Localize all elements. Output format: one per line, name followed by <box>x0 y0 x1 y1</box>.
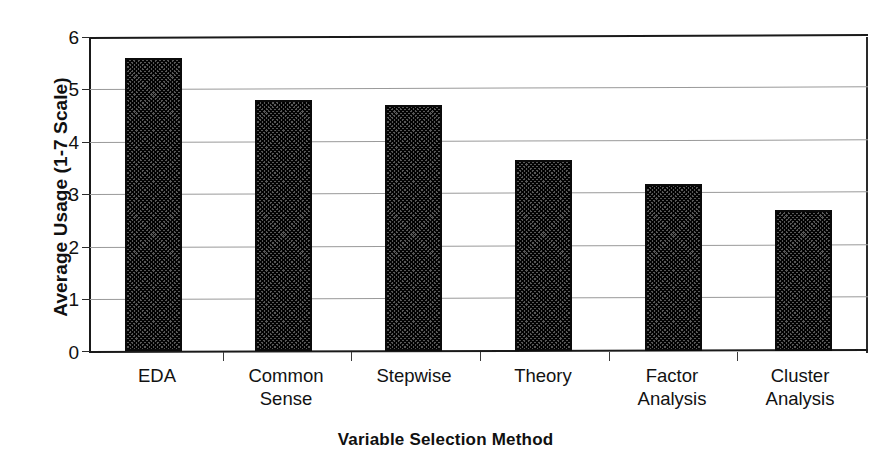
bar-factor-analysis <box>645 184 702 351</box>
y-tick-label-1: 1 <box>53 290 79 309</box>
x-tick-label-stepwise: Stepwise <box>349 364 479 387</box>
y-tick-label-2: 2 <box>53 238 79 257</box>
y-tick-label-0: 0 <box>53 343 79 362</box>
x-tick-label-eda-line-1: EDA <box>92 364 222 387</box>
x-tick-label-common-sense-line-2: Sense <box>221 387 351 410</box>
gridline-3 <box>89 191 868 195</box>
x-tick-label-factor-analysis: Factor Analysis <box>607 364 737 410</box>
x-tick-label-factor-analysis-line-1: Factor <box>607 364 737 387</box>
y-tick-mark-3 <box>82 194 90 195</box>
y-tick-label-4: 4 <box>53 133 79 152</box>
bar-theory <box>515 160 572 351</box>
x-tick-label-stepwise-line-1: Stepwise <box>349 364 479 387</box>
plot-area <box>89 37 868 353</box>
plot-frame-right-border <box>866 37 868 353</box>
y-tick-mark-6 <box>82 37 90 38</box>
gridline-5 <box>89 86 868 90</box>
y-tick-label-3: 3 <box>53 185 79 204</box>
plot-frame-baseline <box>89 349 868 353</box>
x-tick-mark-4 <box>609 352 610 361</box>
bar-cluster-analysis <box>775 210 832 351</box>
bar-common-sense <box>255 100 312 351</box>
x-tick-label-factor-analysis-line-2: Analysis <box>607 387 737 410</box>
x-tick-mark-3 <box>480 352 481 361</box>
y-tick-mark-4 <box>82 142 90 143</box>
plot-frame-left-axis <box>89 37 91 353</box>
x-tick-mark-1 <box>223 352 224 361</box>
x-tick-label-eda: EDA <box>92 364 222 387</box>
bar-chart-figure: Average Usage (1-7 Scale) 6 5 4 3 2 1 0 <box>0 0 891 470</box>
x-tick-label-cluster-analysis-line-1: Cluster <box>735 364 865 387</box>
bar-stepwise <box>385 105 442 351</box>
y-tick-mark-1 <box>82 299 90 300</box>
plot-frame-top-border <box>89 34 868 39</box>
y-tick-mark-2 <box>82 247 90 248</box>
y-tick-mark-0 <box>82 351 90 352</box>
x-tick-label-common-sense: Common Sense <box>221 364 351 410</box>
y-tick-label-6: 6 <box>53 28 79 47</box>
gridline-2 <box>89 244 868 248</box>
x-tick-label-cluster-analysis: Cluster Analysis <box>735 364 865 410</box>
bar-eda <box>125 58 182 351</box>
gridline-1 <box>89 296 868 300</box>
x-tick-label-common-sense-line-1: Common <box>221 364 351 387</box>
x-tick-label-theory: Theory <box>478 364 608 387</box>
y-tick-label-5: 5 <box>53 80 79 99</box>
x-tick-label-theory-line-1: Theory <box>478 364 608 387</box>
x-tick-mark-5 <box>737 352 738 361</box>
x-tick-mark-2 <box>351 352 352 361</box>
x-axis-title: Variable Selection Method <box>0 430 891 450</box>
x-tick-label-cluster-analysis-line-2: Analysis <box>735 387 865 410</box>
gridline-4 <box>89 139 868 143</box>
y-tick-mark-5 <box>82 89 90 90</box>
